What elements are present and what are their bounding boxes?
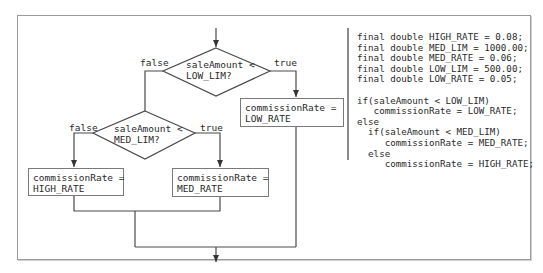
process-box-low-rate-line2: LOW_RATE bbox=[245, 113, 291, 124]
decision-med-lim-true-label: true bbox=[200, 122, 223, 133]
decision-low-lim-true-label: true bbox=[274, 57, 297, 68]
decision-low-lim-text-1: saleAmount < bbox=[186, 59, 255, 70]
process-box-high-rate-line2: HIGH_RATE bbox=[33, 183, 84, 194]
decision-med-lim-false-label: false bbox=[69, 122, 98, 133]
process-box-low-rate-line1: commissionRate = bbox=[245, 102, 337, 113]
process-box-med-rate-line2: MED_RATE bbox=[177, 183, 223, 194]
code-separator bbox=[347, 28, 349, 160]
process-box-high-rate-line1: commissionRate = bbox=[33, 172, 125, 183]
code-listing: final double HIGH_RATE = 0.08; final dou… bbox=[357, 32, 534, 170]
decision-med-lim-text-1: saleAmount < bbox=[114, 123, 183, 134]
decision-med-lim-text-2: MED_LIM? bbox=[114, 134, 160, 145]
code-line: final double LOW_RATE = 0.05; bbox=[357, 74, 534, 85]
decision-low-lim-false-label: false bbox=[140, 57, 169, 68]
code-line: commissionRate = MED_RATE; bbox=[357, 138, 534, 149]
code-line bbox=[357, 85, 534, 96]
code-line: commissionRate = LOW_RATE; bbox=[357, 106, 534, 117]
process-box-low-rate: commissionRate = LOW_RATE bbox=[240, 98, 344, 127]
process-box-med-rate-line1: commissionRate = bbox=[177, 172, 269, 183]
process-box-high-rate: commissionRate = HIGH_RATE bbox=[28, 168, 124, 196]
decision-low-lim-text-2: LOW_LIM? bbox=[186, 70, 232, 81]
code-line: commissionRate = HIGH_RATE; bbox=[357, 159, 534, 170]
process-box-med-rate: commissionRate = MED_RATE bbox=[172, 168, 269, 197]
code-line: final double HIGH_RATE = 0.08; bbox=[357, 32, 534, 43]
